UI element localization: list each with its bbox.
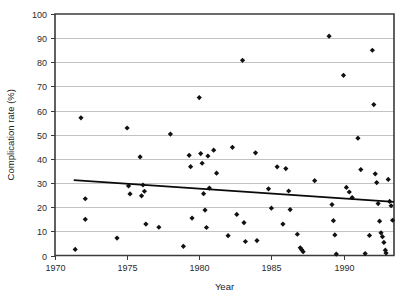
x-axis-title: Year xyxy=(215,281,234,292)
data-point xyxy=(234,212,239,217)
data-point xyxy=(188,164,193,169)
data-point xyxy=(381,240,386,245)
y-tick-label: 10 xyxy=(37,227,47,237)
data-point xyxy=(312,178,317,183)
data-point xyxy=(142,189,147,194)
x-tick-label: 1970 xyxy=(45,263,65,273)
y-tick-label: 80 xyxy=(37,58,47,68)
data-point xyxy=(341,73,346,78)
data-point xyxy=(127,191,132,196)
data-point xyxy=(200,161,205,166)
y-tick-label: 0 xyxy=(42,252,47,262)
y-tick-label: 30 xyxy=(37,179,47,189)
data-point xyxy=(187,153,192,158)
data-point xyxy=(280,222,285,227)
data-point xyxy=(243,239,248,244)
data-point xyxy=(181,244,186,249)
data-point xyxy=(197,95,202,100)
data-point xyxy=(156,225,161,230)
data-point xyxy=(332,232,337,237)
y-tick-labels: 0102030405060708090100 xyxy=(32,10,47,262)
y-tick-label: 60 xyxy=(37,107,47,117)
data-point xyxy=(373,171,378,176)
data-point xyxy=(377,219,382,224)
data-point xyxy=(386,177,391,182)
data-point xyxy=(241,220,246,225)
x-tick-label: 1975 xyxy=(117,263,137,273)
y-tick-label: 50 xyxy=(37,131,47,141)
data-point xyxy=(275,164,280,169)
y-tick-label: 40 xyxy=(37,155,47,165)
data-point xyxy=(374,180,379,185)
y-axis-title: Complication rate (%) xyxy=(5,89,16,180)
plot-frame xyxy=(55,14,394,256)
x-tick-label: 1985 xyxy=(261,263,281,273)
chart-canvas: 0102030405060708090100 19701975198019851… xyxy=(0,0,408,304)
data-point xyxy=(295,232,300,237)
data-point xyxy=(204,225,209,230)
data-point xyxy=(286,188,291,193)
x-tick-label: 1980 xyxy=(189,263,209,273)
data-point xyxy=(73,247,78,252)
data-point xyxy=(198,151,203,156)
data-point xyxy=(269,206,274,211)
data-point xyxy=(326,34,331,39)
data-points-group xyxy=(73,34,396,257)
data-point xyxy=(367,233,372,238)
data-point xyxy=(189,215,194,220)
data-point xyxy=(283,166,288,171)
y-tick-label: 20 xyxy=(37,203,47,213)
data-point xyxy=(254,238,259,243)
data-point xyxy=(331,218,336,223)
x-tick-labels: 19701975198019851990 xyxy=(45,263,354,273)
data-point xyxy=(83,196,88,201)
data-point xyxy=(214,171,219,176)
data-point xyxy=(202,207,207,212)
data-point xyxy=(226,233,231,238)
data-point xyxy=(253,150,258,155)
y-tick-label: 90 xyxy=(37,34,47,44)
y-tick-label: 70 xyxy=(37,82,47,92)
data-point xyxy=(371,102,376,107)
data-point xyxy=(83,217,88,222)
data-point xyxy=(114,236,119,241)
data-point xyxy=(355,136,360,141)
data-point xyxy=(138,154,143,159)
data-point xyxy=(143,222,148,227)
data-point xyxy=(139,193,144,198)
data-point xyxy=(266,186,271,191)
x-tick-label: 1990 xyxy=(334,263,354,273)
data-point xyxy=(211,148,216,153)
scatter-chart: 0102030405060708090100 19701975198019851… xyxy=(0,0,408,304)
data-point xyxy=(78,115,83,120)
data-point xyxy=(125,125,130,130)
gridlines-group xyxy=(55,39,394,232)
data-point xyxy=(344,185,349,190)
data-point xyxy=(205,153,210,158)
data-point xyxy=(347,189,352,194)
data-point xyxy=(230,145,235,150)
data-point xyxy=(329,202,334,207)
data-point xyxy=(370,48,375,53)
y-tick-label: 100 xyxy=(32,10,47,20)
data-point xyxy=(201,191,206,196)
axes-group xyxy=(55,14,394,256)
data-point xyxy=(358,167,363,172)
